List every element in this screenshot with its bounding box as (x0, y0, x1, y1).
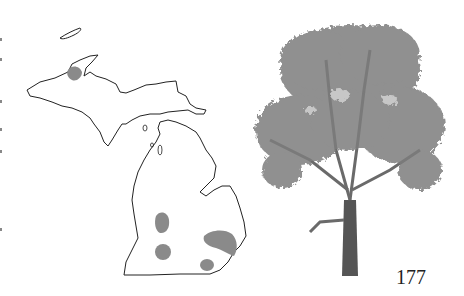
tree-illustration (240, 0, 464, 296)
range-area-sw-north (155, 213, 169, 234)
page-number: 177 (396, 266, 426, 289)
michigan-range-map (0, 0, 250, 296)
range-area-sw-south (155, 244, 171, 260)
upper-peninsula-outline (27, 55, 206, 146)
range-area-se-large (204, 230, 237, 256)
range-area-upper-peninsula (67, 66, 82, 80)
trunk (342, 200, 358, 276)
range-area-se-small (200, 259, 214, 271)
isle-royale-outline (60, 28, 81, 39)
